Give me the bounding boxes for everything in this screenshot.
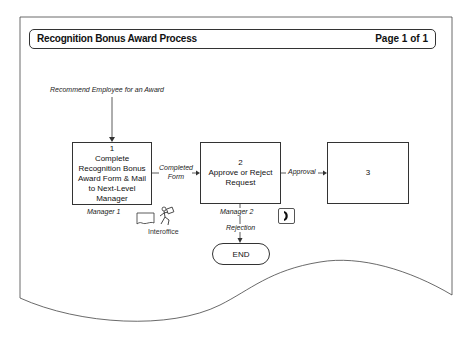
step-2-text: Approve or Reject Request [206, 168, 276, 188]
end-label: END [233, 250, 250, 259]
connector-approval: Approval [288, 168, 316, 175]
step-2-number: 2 [238, 158, 242, 168]
step-1-number: 1 [110, 144, 114, 154]
title-bar: Recognition Bonus Award Process Page 1 o… [29, 29, 436, 49]
step-1-text: Complete Recognition Bonus Award Form & … [75, 154, 149, 204]
page-title: Recognition Bonus Award Process [37, 33, 197, 44]
phone-icon [278, 208, 295, 224]
courier-icon [156, 205, 178, 227]
step-3-number: 3 [366, 168, 370, 178]
form-icon [136, 212, 156, 226]
end-terminator: END [212, 243, 270, 265]
step-3-box: 3 [327, 142, 409, 204]
step-2-role: Manager 2 [220, 208, 253, 215]
connector-completed-form: Completed Form [159, 163, 193, 181]
courier-label: Interoffice [148, 228, 179, 235]
start-label: Recommend Employee for an Award [50, 86, 164, 93]
connector-rejection: Rejection [226, 224, 255, 231]
page-number: Page 1 of 1 [375, 33, 428, 44]
step-1-role: Manager 1 [87, 208, 120, 215]
step-1-box: 1 Complete Recognition Bonus Award Form … [72, 142, 152, 205]
step-2-box: 2 Approve or Reject Request [200, 142, 281, 204]
